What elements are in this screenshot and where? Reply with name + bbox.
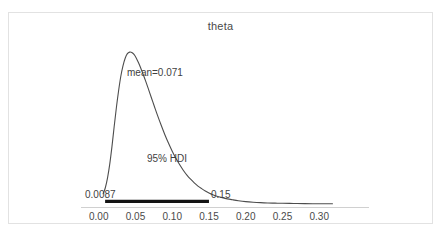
- mean-annotation-label: mean=0.071: [127, 67, 183, 78]
- x-axis-tick-label: 0.00: [89, 211, 109, 222]
- x-axis-tick-label: 0.15: [199, 211, 219, 222]
- hdi-annotation-label: 95% HDI: [147, 153, 187, 164]
- x-axis-tick-label: 0.25: [273, 211, 293, 222]
- x-axis-tick-label: 0.05: [126, 211, 146, 222]
- x-axis-tick-label: 0.20: [236, 211, 256, 222]
- posterior-density-plot: 0.000.050.100.150.200.250.30 mean=0.071 …: [9, 13, 434, 225]
- hdi-low-bound-label: 0.0087: [85, 189, 116, 200]
- x-axis-tick-label: 0.30: [309, 211, 329, 222]
- x-axis-tick-labels: 0.000.050.100.150.200.250.30: [89, 211, 329, 222]
- hdi-high-bound-label: 0.15: [211, 189, 231, 200]
- chart-frame: theta 0.000.050.100.150.200.250.30 mean=…: [8, 12, 433, 224]
- x-axis-tick-label: 0.10: [162, 211, 182, 222]
